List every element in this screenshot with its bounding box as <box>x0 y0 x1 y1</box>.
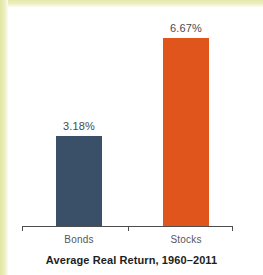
axis-tick-right <box>232 226 233 231</box>
category-label-stocks: Stocks <box>151 234 221 245</box>
value-label-stocks: 6.67% <box>151 22 221 34</box>
plot-area: 6.67% 3.18% Bonds Stocks Average Real Re… <box>0 0 263 275</box>
axis-tick-left <box>22 226 23 231</box>
bar-bonds <box>56 136 102 226</box>
axis-tick-middle <box>128 226 129 231</box>
bar-chart-figure: 6.67% 3.18% Bonds Stocks Average Real Re… <box>0 0 263 275</box>
value-label-bonds: 3.18% <box>44 120 114 132</box>
bar-stocks <box>163 38 209 226</box>
chart-caption: Average Real Return, 1960–2011 <box>0 254 263 266</box>
category-label-bonds: Bonds <box>44 234 114 245</box>
